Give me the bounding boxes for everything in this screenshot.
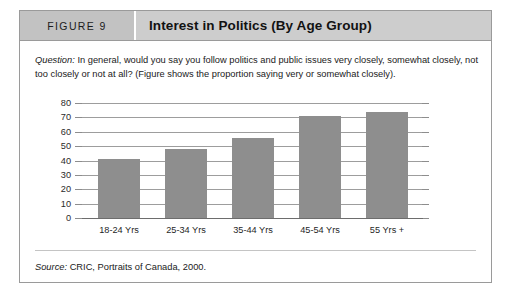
y-axis-label: 20 — [61, 184, 71, 194]
bar-chart: 01020304050607080 18-24 Yrs25-34 Yrs35-4… — [20, 96, 491, 246]
plot-area: 01020304050607080 18-24 Yrs25-34 Yrs35-4… — [82, 96, 422, 228]
y-axis-label: 30 — [61, 170, 71, 180]
source-text-block: Source: CRIC, Portraits of Canada, 2000. — [35, 262, 206, 272]
y-axis-label: 0 — [66, 213, 71, 223]
y-axis-label: 80 — [61, 98, 71, 108]
figure-number-label: FIGURE 9 — [47, 20, 107, 32]
figure-title-box: Interest in Politics (By Age Group) — [136, 11, 491, 40]
x-axis-baseline — [82, 218, 423, 219]
bar: 55 Yrs + — [366, 112, 408, 218]
x-axis-category-label: 18-24 Yrs — [99, 225, 139, 235]
x-axis-category-label: 55 Yrs + — [370, 225, 404, 235]
y-axis-tick — [422, 132, 429, 133]
y-axis-tick — [75, 175, 82, 176]
y-axis-tick — [75, 146, 82, 147]
x-axis-category-label: 45-54 Yrs — [300, 225, 340, 235]
figure-number-box: FIGURE 9 — [20, 11, 136, 40]
bar: 25-34 Yrs — [165, 149, 207, 218]
y-axis-tick — [75, 117, 82, 118]
y-axis-tick — [75, 161, 82, 162]
y-axis-tick — [422, 189, 429, 190]
y-axis-tick — [75, 204, 82, 205]
question-body: In general, would you say you follow pol… — [35, 55, 478, 79]
source-body: CRIC, Portraits of Canada, 2000. — [67, 262, 206, 272]
y-axis-tick — [75, 189, 82, 190]
y-axis-label: 10 — [61, 199, 71, 209]
bar-series: 18-24 Yrs25-34 Yrs35-44 Yrs45-54 Yrs55 Y… — [82, 103, 422, 218]
question-label: Question: — [35, 55, 75, 65]
y-axis-tick — [75, 103, 82, 104]
y-axis-tick — [422, 161, 429, 162]
y-axis-tick — [75, 218, 82, 219]
figure-frame: FIGURE 9 Interest in Politics (By Age Gr… — [19, 10, 492, 283]
figure-header: FIGURE 9 Interest in Politics (By Age Gr… — [20, 11, 491, 41]
bar: 18-24 Yrs — [98, 159, 140, 218]
source-divider — [35, 250, 476, 251]
page-title: Interest in Politics (By Age Group) — [149, 18, 372, 33]
source-label: Source: — [35, 262, 67, 272]
y-axis-label: 40 — [61, 156, 71, 166]
y-axis-tick — [422, 218, 429, 219]
bar: 45-54 Yrs — [299, 116, 341, 218]
figure-body: Question: In general, would you say you … — [20, 41, 491, 282]
y-axis-tick — [422, 103, 429, 104]
y-axis-tick — [422, 175, 429, 176]
y-axis-tick — [75, 132, 82, 133]
x-axis-category-label: 35-44 Yrs — [233, 225, 273, 235]
bar: 35-44 Yrs — [232, 138, 274, 219]
x-axis-category-label: 25-34 Yrs — [166, 225, 206, 235]
y-axis-tick — [422, 117, 429, 118]
y-axis-tick — [422, 204, 429, 205]
y-axis-label: 60 — [61, 127, 71, 137]
y-axis-tick — [422, 146, 429, 147]
y-axis-label: 70 — [61, 112, 71, 122]
y-axis-label: 50 — [61, 141, 71, 151]
question-text-block: Question: In general, would you say you … — [35, 54, 479, 81]
